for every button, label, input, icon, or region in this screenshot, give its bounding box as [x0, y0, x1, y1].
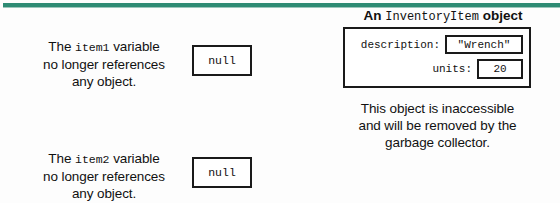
field-value-description: "Wrench"	[445, 35, 523, 54]
variable-description-item2-line3: any object.	[18, 185, 190, 202]
field-row-units: units: 20	[345, 59, 529, 79]
variable-description-item1-line1: The item1 variable	[18, 38, 190, 56]
field-label-units: units:	[432, 63, 472, 75]
variable-description-item1-line1-prefix: The	[48, 39, 75, 54]
field-value-units: 20	[477, 59, 523, 79]
variable-description-item1-line3: any object.	[18, 73, 190, 90]
variable-name-item1: item1	[75, 41, 110, 54]
variable-description-item1-line2: no longer references	[18, 56, 190, 73]
variable-description-item2-line1-suffix: variable	[110, 151, 160, 166]
object-caption-line1: This object is inaccessible	[330, 100, 545, 117]
value-box-item1: null	[192, 45, 252, 76]
variable-description-item2: The item2 variable no longer references …	[18, 150, 190, 202]
object-title-suffix: object	[479, 8, 523, 23]
field-row-description: description: "Wrench"	[345, 35, 529, 54]
variable-description-item2-line2: no longer references	[18, 168, 190, 185]
variable-name-item2: item2	[75, 153, 110, 166]
object-caption-line3: garbage collector.	[330, 134, 545, 151]
variable-description-item2-line1-prefix: The	[48, 151, 75, 166]
object-title-prefix: An	[364, 8, 386, 23]
variable-description-item2-line1: The item2 variable	[18, 150, 190, 168]
object-caption-line2: and will be removed by the	[330, 117, 545, 134]
inventory-item-object-box: description: "Wrench" units: 20	[343, 27, 531, 88]
object-title: An InventoryItem object	[343, 8, 543, 24]
object-caption: This object is inaccessible and will be …	[330, 100, 545, 151]
object-class-name: InventoryItem	[385, 10, 479, 24]
field-label-description: description:	[361, 39, 440, 51]
variable-description-item1-line1-suffix: variable	[110, 39, 160, 54]
value-box-item2: null	[192, 157, 252, 188]
variable-description-item1: The item1 variable no longer references …	[18, 38, 190, 90]
object-reference-diagram: The item1 variable no longer references …	[0, 0, 560, 203]
